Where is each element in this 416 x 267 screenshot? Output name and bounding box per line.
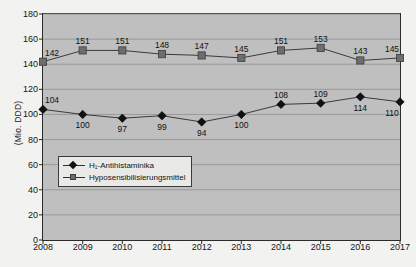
data-label-s2-2016: 143 bbox=[353, 47, 367, 56]
data-point-s2-2012[interactable] bbox=[198, 52, 205, 59]
data-point-s2-2013[interactable] bbox=[238, 54, 245, 61]
data-point-s2-2010[interactable] bbox=[119, 47, 126, 54]
y-tick-40: 40 bbox=[8, 185, 38, 194]
x-tick-2015: 2015 bbox=[301, 243, 341, 252]
data-point-s1-2012[interactable] bbox=[197, 118, 205, 126]
x-tick-2017: 2017 bbox=[380, 243, 416, 252]
data-point-s1-2011[interactable] bbox=[158, 112, 166, 120]
y-axis-tick-labels: 020406080100120140160180 bbox=[8, 0, 38, 267]
data-label-s2-2008: 142 bbox=[45, 49, 59, 58]
y-tick-120: 120 bbox=[8, 85, 38, 94]
data-point-s1-2016[interactable] bbox=[356, 93, 364, 101]
x-tick-2010: 2010 bbox=[102, 243, 142, 252]
data-point-s2-2014[interactable] bbox=[277, 47, 284, 54]
data-point-s1-2015[interactable] bbox=[316, 99, 324, 107]
data-label-s2-2009: 151 bbox=[76, 37, 90, 46]
x-tick-2012: 2012 bbox=[182, 243, 222, 252]
data-point-s1-2013[interactable] bbox=[237, 110, 245, 118]
data-label-s1-2015: 109 bbox=[314, 90, 328, 99]
data-label-s2-2011: 148 bbox=[155, 41, 169, 50]
y-tick-180: 180 bbox=[8, 10, 38, 19]
series-line-1 bbox=[43, 97, 400, 122]
x-tick-2013: 2013 bbox=[221, 243, 261, 252]
data-label-s2-2013: 145 bbox=[234, 45, 248, 54]
data-point-s2-2016[interactable] bbox=[357, 57, 364, 64]
x-tick-2014: 2014 bbox=[261, 243, 301, 252]
y-tick-140: 140 bbox=[8, 60, 38, 69]
x-tick-2016: 2016 bbox=[340, 243, 380, 252]
data-point-s2-2009[interactable] bbox=[79, 47, 86, 54]
y-tick-60: 60 bbox=[8, 160, 38, 169]
data-label-s1-2008: 104 bbox=[45, 96, 59, 105]
data-point-s1-2008[interactable] bbox=[39, 105, 47, 113]
data-point-s1-2017[interactable] bbox=[396, 98, 404, 106]
chart-legend: H₁-Antihistaminika Hyposensibilisierungs… bbox=[58, 156, 192, 187]
data-label-s1-2016: 114 bbox=[354, 104, 368, 113]
x-axis-tick-labels: 2008200920102011201220132014201520162017 bbox=[0, 243, 416, 263]
x-tick-2011: 2011 bbox=[142, 243, 182, 252]
chart-svg bbox=[43, 14, 400, 240]
data-label-s2-2010: 151 bbox=[115, 37, 129, 46]
data-label-s1-2017: 110 bbox=[385, 109, 399, 118]
data-point-s2-2015[interactable] bbox=[317, 44, 324, 51]
data-label-s2-2017: 145 bbox=[385, 45, 399, 54]
data-label-s1-2009: 100 bbox=[76, 121, 90, 130]
data-label-s1-2013: 100 bbox=[234, 121, 248, 130]
plot-area bbox=[42, 13, 401, 241]
data-point-s2-2017[interactable] bbox=[396, 54, 403, 61]
diamond-marker-icon bbox=[63, 161, 85, 170]
legend-item-series-2[interactable]: Hyposensibilisierungsmittel bbox=[63, 172, 185, 184]
chart-container: (Mio. DDD) 020406080100120140160180 1041… bbox=[0, 0, 416, 267]
data-label-s1-2010: 97 bbox=[118, 125, 127, 134]
data-label-s1-2011: 99 bbox=[157, 123, 166, 132]
data-point-s1-2014[interactable] bbox=[277, 100, 285, 108]
data-point-s2-2011[interactable] bbox=[158, 51, 165, 58]
legend-label-series-2: Hyposensibilisierungsmittel bbox=[89, 172, 185, 184]
legend-item-series-1[interactable]: H₁-Antihistaminika bbox=[63, 160, 185, 172]
y-tick-80: 80 bbox=[8, 135, 38, 144]
data-point-s2-2008[interactable] bbox=[39, 58, 46, 65]
y-tick-100: 100 bbox=[8, 110, 38, 119]
legend-label-series-1: H₁-Antihistaminika bbox=[89, 160, 154, 172]
data-label-s2-2012: 147 bbox=[195, 42, 209, 51]
x-tick-2008: 2008 bbox=[23, 243, 63, 252]
y-tick-160: 160 bbox=[8, 35, 38, 44]
data-point-s1-2009[interactable] bbox=[78, 110, 86, 118]
x-tick-2009: 2009 bbox=[63, 243, 103, 252]
series-line-2 bbox=[43, 48, 400, 62]
data-label-s1-2012: 94 bbox=[197, 129, 206, 138]
square-marker-icon bbox=[63, 173, 85, 182]
data-point-s1-2010[interactable] bbox=[118, 114, 126, 122]
y-tick-20: 20 bbox=[8, 210, 38, 219]
data-label-s1-2014: 108 bbox=[274, 91, 288, 100]
data-label-s2-2014: 151 bbox=[274, 37, 288, 46]
data-label-s2-2015: 153 bbox=[314, 35, 328, 44]
